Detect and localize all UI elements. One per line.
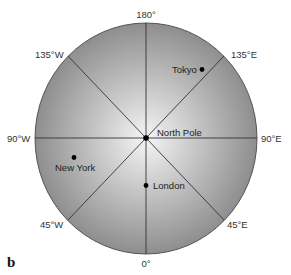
- north-pole-label: North Pole: [157, 127, 202, 138]
- north-pole-dot: [143, 135, 149, 141]
- meridian-label-90e: 90°E: [261, 133, 282, 144]
- tokyo-dot: [200, 67, 205, 72]
- new-york-dot: [72, 155, 77, 160]
- polar-diagram: North Pole 180° 135°E 90°E 45°E 0° 45°W …: [0, 0, 291, 275]
- meridian-label-0: 0°: [141, 258, 150, 269]
- meridian-label-90w: 90°W: [7, 133, 30, 144]
- london-dot: [144, 183, 149, 188]
- meridian-label-45e: 45°E: [227, 219, 248, 230]
- meridian-label-135e: 135°E: [231, 49, 257, 60]
- city-label-new-york: New York: [55, 162, 95, 173]
- meridian-label-180: 180°: [136, 9, 156, 20]
- city-label-london: London: [153, 180, 185, 191]
- panel-label: b: [7, 254, 15, 270]
- meridian-label-45w: 45°W: [40, 219, 63, 230]
- meridian-label-135w: 135°W: [35, 49, 64, 60]
- city-label-tokyo: Tokyo: [172, 64, 197, 75]
